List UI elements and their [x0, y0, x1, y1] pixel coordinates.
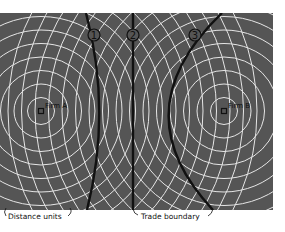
svg-text:1: 1 [91, 30, 97, 41]
boundary-1-marker: 1 [88, 29, 100, 41]
trade-boundary-leader-right [208, 209, 213, 216]
trade-boundary-label: Trade boundary [140, 212, 200, 221]
boundary-2-marker: 2 [127, 29, 139, 41]
boundary-3-marker: 3 [189, 29, 201, 41]
distance-units-label: Distance units [8, 212, 62, 221]
svg-text:3: 3 [192, 30, 198, 41]
svg-text:2: 2 [130, 30, 136, 41]
trade-boundary-diagram: 1 2 3 Firm A Firm B Distance units Trade… [0, 0, 285, 232]
firm-a-label: Firm A [45, 102, 67, 110]
firm-b-label: Firm B [228, 102, 250, 110]
